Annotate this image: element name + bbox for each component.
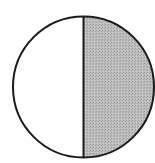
half-shaded-circle-diagram [0, 0, 155, 163]
left-half-unshaded [12, 16, 83, 158]
right-half-shaded [84, 16, 155, 158]
